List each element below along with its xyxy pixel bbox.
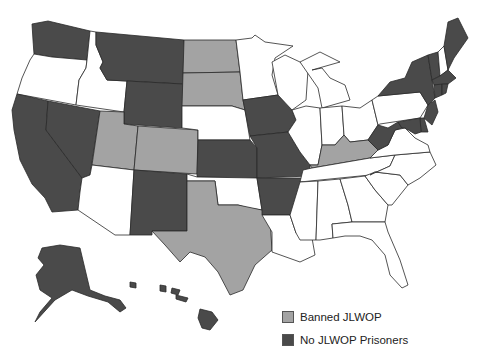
state-co bbox=[134, 126, 198, 174]
legend-label-no-prisoners: No JLWOP Prisoners bbox=[300, 334, 408, 346]
us-map bbox=[0, 0, 489, 357]
state-ri bbox=[442, 84, 448, 95]
state-ks bbox=[197, 140, 257, 178]
state-ak bbox=[35, 245, 126, 322]
legend-label-banned: Banned JLWOP bbox=[300, 311, 382, 323]
state-hi bbox=[130, 282, 218, 330]
legend-swatch-banned bbox=[282, 311, 294, 323]
state-fl bbox=[332, 222, 408, 288]
legend: Banned JLWOP No JLWOP Prisoners bbox=[282, 310, 408, 356]
state-me bbox=[444, 18, 468, 70]
state-nd bbox=[183, 40, 240, 73]
state-ct bbox=[434, 84, 442, 98]
state-wy bbox=[124, 81, 183, 128]
legend-item-banned: Banned JLWOP bbox=[282, 310, 408, 324]
state-wa bbox=[32, 21, 90, 60]
state-nm bbox=[130, 170, 187, 235]
state-mt bbox=[96, 32, 184, 84]
legend-item-no-prisoners: No JLWOP Prisoners bbox=[282, 333, 408, 347]
state-sd bbox=[182, 72, 245, 110]
legend-swatch-no-prisoners bbox=[282, 334, 294, 346]
